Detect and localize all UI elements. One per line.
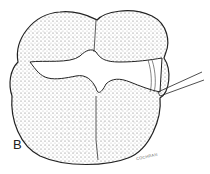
molar-drawing xyxy=(0,0,210,174)
tooth-illustration: B COCHRAN xyxy=(0,0,210,174)
panel-label: B xyxy=(13,137,22,152)
